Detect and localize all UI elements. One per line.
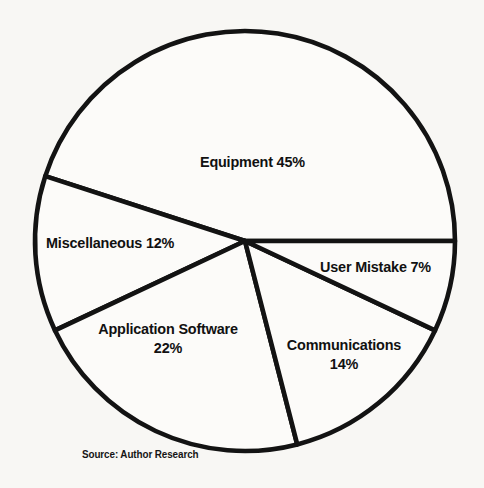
- slice-label-user-mistake: User Mistake 7%: [320, 258, 431, 277]
- source-note: Source: Author Research: [82, 448, 199, 460]
- pie-chart-figure: Equipment 45% Miscellaneous 12% Applicat…: [0, 0, 484, 488]
- slice-label-equipment: Equipment 45%: [200, 153, 305, 172]
- slice-label-miscellaneous: Miscellaneous 12%: [46, 234, 174, 253]
- slice-label-application-software: Application Software 22%: [94, 320, 243, 358]
- slice-label-communications: Communications 14%: [285, 336, 402, 374]
